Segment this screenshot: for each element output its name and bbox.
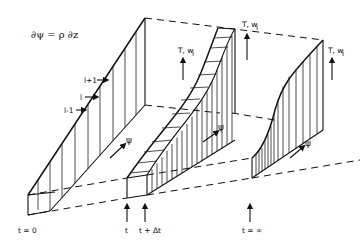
rung-line	[181, 99, 200, 100]
rung-line	[130, 171, 150, 173]
rung-line	[190, 87, 208, 88]
layer-label-l-plus-1: l+1	[84, 76, 97, 85]
profile-t-inf	[252, 40, 323, 178]
psi-label: ψ	[218, 122, 224, 132]
rung-line	[137, 161, 157, 163]
rung-line	[172, 113, 190, 114]
psi-axis-arrow-2: ψ	[203, 122, 224, 142]
rung-line	[204, 61, 222, 62]
values-subscript-0: i	[192, 49, 194, 58]
values-subscript-2: i	[342, 49, 344, 58]
three-time-profile-diagram: ∂ψ = ρ ∂z l+1 l l-1	[0, 0, 360, 251]
values-label-2: T, w	[327, 46, 343, 55]
rung-line	[162, 127, 180, 128]
layer-label-l: l	[80, 93, 82, 102]
psi-axis-arrow-3: ψ	[290, 138, 311, 158]
values-subscript-1: i	[256, 23, 258, 32]
equation-label: ∂ψ = ρ ∂z	[31, 29, 78, 40]
psi-label: ψ	[305, 138, 311, 148]
time-label-t0: t = 0	[18, 226, 37, 235]
time-label-t-dt: t + Δt	[139, 226, 161, 235]
time-label-t-inf: t = ∞	[242, 226, 262, 235]
values-label-1: T, w	[241, 20, 257, 29]
psi-label: ψ	[126, 135, 132, 145]
rung-line	[214, 37, 232, 38]
layer-label-l-minus-1: l-1	[64, 106, 74, 115]
values-label-0: T, w	[177, 46, 193, 55]
time-label-t: t	[125, 226, 128, 235]
